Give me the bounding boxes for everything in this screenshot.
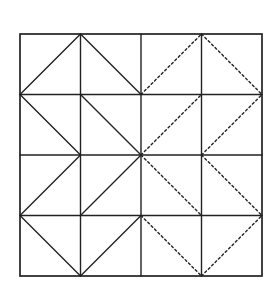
- dashed-diagonal: [141, 95, 202, 156]
- dashed-diagonal: [202, 95, 263, 156]
- dashed-diagonal: [141, 216, 202, 277]
- dashed-diagonal: [202, 216, 263, 277]
- solid-diagonal: [81, 155, 142, 216]
- tessellation-diagram: [0, 0, 272, 290]
- dashed-diagonal: [202, 155, 263, 216]
- dashed-diagonal: [202, 34, 263, 95]
- solid-diagonal: [20, 95, 81, 156]
- dashed-diagonal: [141, 34, 202, 95]
- solid-diagonal: [20, 155, 81, 216]
- solid-diagonal: [20, 34, 81, 95]
- solid-diagonal: [20, 216, 81, 277]
- dashed-diagonal: [141, 155, 202, 216]
- solid-diagonal: [81, 95, 142, 156]
- solid-diagonal: [81, 216, 142, 277]
- solid-diagonal: [81, 34, 142, 95]
